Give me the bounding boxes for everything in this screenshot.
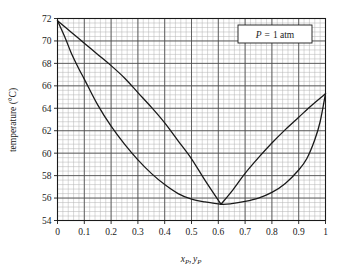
x-tick-label: 0.3 xyxy=(132,227,144,237)
pressure-legend: P=1 atm xyxy=(238,25,312,43)
y-tick-label: 70 xyxy=(42,36,52,46)
legend-equals: = xyxy=(265,30,270,40)
chart-figure: 00.10.20.30.40.50.60.70.80.91 5456586062… xyxy=(0,0,347,275)
x-tick-label: 0.6 xyxy=(212,227,224,237)
x-tick-label: 0.7 xyxy=(239,227,251,237)
legend-value: 1 atm xyxy=(273,30,295,40)
x-tick-label: 0.8 xyxy=(266,227,278,237)
legend-label: P=1 atm xyxy=(255,30,295,40)
y-tick-label: 72 xyxy=(42,14,52,24)
x-tick-label: 0.9 xyxy=(293,227,305,237)
y-axis-title-text: temperature (°C) xyxy=(8,88,19,152)
y-tick-label: 54 xyxy=(42,216,52,226)
x-tick-label: 0.2 xyxy=(105,227,117,237)
y-axis-title: temperature (°C) xyxy=(8,88,19,152)
y-tick-label: 56 xyxy=(42,193,52,203)
xlabel-comma: , xyxy=(189,254,191,264)
x-tick-label: 0.5 xyxy=(186,227,198,237)
x-tick-label: 0.1 xyxy=(78,227,90,237)
x-tick-label: 1 xyxy=(323,227,328,237)
pressure-symbol: P xyxy=(255,30,262,40)
y-tick-label: 66 xyxy=(42,81,52,91)
x-tick-label: 0.4 xyxy=(159,227,171,237)
y-subscript-glyph: P xyxy=(196,258,201,265)
txy-phase-diagram: 00.10.20.30.40.50.60.70.80.91 5456586062… xyxy=(0,0,347,275)
y-tick-label: 58 xyxy=(42,171,52,181)
y-tick-label: 64 xyxy=(42,104,52,114)
y-tick-label: 68 xyxy=(42,59,52,69)
y-tick-label: 62 xyxy=(42,126,52,136)
y-tick-label: 60 xyxy=(42,149,52,159)
x-tick-label: 0 xyxy=(55,227,60,237)
